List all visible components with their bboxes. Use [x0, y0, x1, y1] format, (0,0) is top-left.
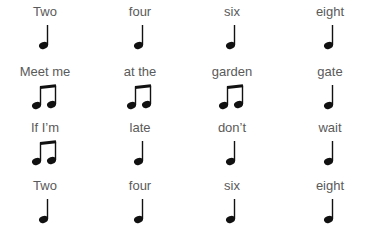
rhythm-cell: eight — [285, 4, 373, 50]
syllable-label: six — [187, 178, 277, 194]
rhythm-cell: Two — [0, 178, 90, 224]
syllable-label: late — [95, 120, 185, 136]
beamed-eighth-notes-icon — [0, 84, 90, 110]
quarter-note-icon — [95, 140, 185, 166]
quarter-note-icon — [285, 84, 373, 110]
rhythm-cell: Meet me — [0, 64, 90, 110]
rhythm-cell: four — [95, 4, 185, 50]
quarter-note-icon — [187, 198, 277, 224]
rhythm-cell: six — [187, 178, 277, 224]
syllable-label: eight — [285, 4, 373, 20]
rhythm-cell: Two — [0, 4, 90, 50]
syllable-label: Meet me — [0, 64, 90, 80]
rhythm-cell: eight — [285, 178, 373, 224]
beamed-eighth-notes-icon — [0, 140, 90, 166]
rhythm-cell: gate — [285, 64, 373, 110]
quarter-note-icon — [187, 140, 277, 166]
syllable-label: wait — [285, 120, 373, 136]
quarter-note-icon — [187, 24, 277, 50]
quarter-note-icon — [285, 198, 373, 224]
syllable-label: eight — [285, 178, 373, 194]
rhythm-cell: garden — [187, 64, 277, 110]
syllable-label: four — [95, 4, 185, 20]
quarter-note-icon — [95, 198, 185, 224]
syllable-label: gate — [285, 64, 373, 80]
rhythm-cell: don’t — [187, 120, 277, 166]
rhythm-cell: late — [95, 120, 185, 166]
quarter-note-icon — [0, 198, 90, 224]
beamed-eighth-notes-icon — [187, 84, 277, 110]
syllable-label: don’t — [187, 120, 277, 136]
syllable-label: six — [187, 4, 277, 20]
beamed-eighth-notes-icon — [95, 84, 185, 110]
syllable-label: garden — [187, 64, 277, 80]
rhythm-cell: If I’m — [0, 120, 90, 166]
rhythm-cell: four — [95, 178, 185, 224]
rhythm-cell: wait — [285, 120, 373, 166]
syllable-label: If I’m — [0, 120, 90, 136]
syllable-label: Two — [0, 178, 90, 194]
quarter-note-icon — [0, 24, 90, 50]
quarter-note-icon — [95, 24, 185, 50]
quarter-note-icon — [285, 140, 373, 166]
syllable-label: Two — [0, 4, 90, 20]
quarter-note-icon — [285, 24, 373, 50]
syllable-label: four — [95, 178, 185, 194]
rhythm-cell: at the — [95, 64, 185, 110]
rhythm-cell: six — [187, 4, 277, 50]
syllable-label: at the — [95, 64, 185, 80]
